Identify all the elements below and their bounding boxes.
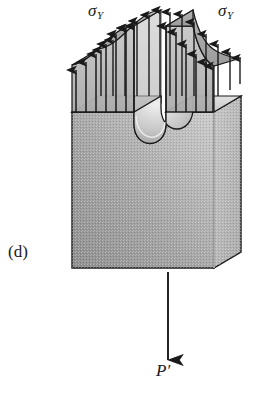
figure-notched-bar-stress-distribution: σY σY (d) P′	[0, 0, 280, 400]
specimen-block	[72, 96, 241, 268]
figure-part-label: (d)	[8, 243, 28, 260]
sigma-symbol-left: σ	[88, 1, 96, 20]
stress-distribution-left	[72, 10, 161, 112]
block-side-face-texture	[214, 96, 241, 268]
load-prime-symbol: ′	[166, 361, 170, 380]
sigma-subscript-right: Y	[227, 9, 233, 21]
stress-plateau-left	[134, 10, 161, 112]
load-label: P′	[156, 362, 170, 379]
sigma-subscript-left: Y	[97, 9, 103, 21]
load-symbol: P	[156, 361, 166, 380]
sigma-symbol-right: σ	[218, 1, 226, 20]
stress-label-right: σY	[218, 2, 233, 21]
stress-label-left: σY	[88, 2, 103, 21]
figure-illustration	[0, 0, 280, 400]
stress-surface-right-front	[166, 26, 214, 112]
